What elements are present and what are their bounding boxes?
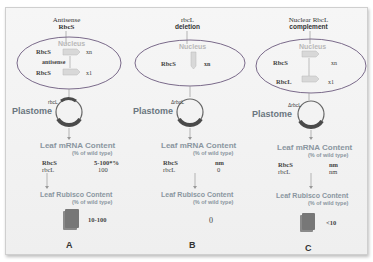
rubisco-value: 0 — [209, 216, 213, 225]
mrna-gene-label: rbcL — [278, 168, 290, 175]
gene1-suffix: xn — [86, 49, 92, 55]
mrna-gene-label: RbcS — [278, 161, 293, 168]
plastome-gene-label: ΔrbcL — [171, 99, 184, 105]
gene-box-icon — [63, 69, 80, 75]
mrna-title: Leaf mRNA Content — [40, 141, 115, 150]
mrna-value: nm — [215, 159, 224, 166]
panel-b-header-line2: deletion — [127, 23, 248, 30]
gene-box-icon — [191, 52, 196, 69]
gene1-label: RbcS — [273, 59, 288, 66]
plastome-gene-label: ΔrbcL — [288, 102, 301, 108]
mrna-subtitle: (% of wild type) — [308, 152, 348, 158]
rubisco-title: Leaf Rubisco Content — [40, 191, 112, 198]
mrna-value: 0 — [217, 166, 220, 173]
panel-letter: B — [189, 240, 196, 250]
mrna-subtitle: (% of wild type) — [72, 150, 112, 156]
rubisco-subtitle: (% of wild type) — [72, 199, 112, 205]
mrna-gene-label: rbcL — [42, 166, 54, 173]
gene1-label: RbcS — [36, 48, 51, 55]
mrna-value: 100 — [98, 166, 108, 173]
nucleus-label: Nucleus — [179, 43, 206, 50]
gene-box-icon — [302, 76, 319, 82]
gene2-label: RbcL — [276, 78, 292, 85]
panel-b: rbcL deletion Nucleus RbcS xn ΔrbcL Plas… — [127, 8, 248, 256]
rubisco-subtitle: (% of wild type) — [193, 199, 233, 205]
gene1-label: RbcS — [161, 60, 176, 67]
diagram-frame: Antisense RbcS Nucleus RbcS xn antisense… — [5, 7, 368, 255]
gene2-label: RbcS — [36, 69, 51, 76]
mrna-value: nm — [329, 161, 338, 168]
gene1-suffix: xn — [204, 61, 210, 67]
plastome-label: Plastome — [252, 109, 292, 119]
rubisco-title: Leaf Rubisco Content — [161, 191, 233, 198]
rubisco-subtitle: (% of wild type) — [308, 200, 348, 206]
mrna-title: Leaf mRNA Content — [277, 143, 352, 152]
mrna-value: 5-100*% — [94, 159, 119, 166]
plastome-label: Plastome — [133, 106, 173, 116]
mrna-gene-label: RbcS — [163, 159, 178, 166]
gene2-suffix: x1 — [86, 70, 92, 76]
gene-box-icon — [302, 51, 319, 57]
panel-c: Nuclear RbcL complement Nucleus RbcS xn … — [248, 8, 369, 256]
panel-letter: A — [66, 240, 73, 250]
mrna-gene-label: rbcL — [163, 166, 175, 173]
nucleus-label: Nucleus — [58, 40, 85, 47]
gene1-suffix: xn — [331, 60, 337, 66]
plastome-label: Plastome — [12, 106, 52, 116]
panel-a-header-line2: RbcS — [6, 23, 127, 31]
nucleus-label: Nucleus — [299, 43, 326, 50]
rubisco-value: 10-100 — [88, 216, 106, 223]
mrna-value: nm — [329, 168, 337, 175]
antisense-label: antisense — [42, 59, 65, 65]
panel-c-header-line2: complement — [248, 23, 369, 30]
mrna-gene-label: RbcS — [42, 159, 57, 166]
rubisco-value: <10 — [326, 219, 336, 226]
mrna-subtitle: (% of wild type) — [193, 150, 233, 156]
panel-letter: C — [305, 243, 312, 253]
mrna-title: Leaf mRNA Content — [161, 141, 236, 150]
gene2-suffix: x1 — [328, 79, 334, 85]
rubisco-title: Leaf Rubisco Content — [276, 192, 348, 199]
panel-a: Antisense RbcS Nucleus RbcS xn antisense… — [6, 8, 127, 256]
gene-box-icon — [63, 49, 80, 55]
plastome-gene-label: rbcL — [48, 99, 58, 105]
